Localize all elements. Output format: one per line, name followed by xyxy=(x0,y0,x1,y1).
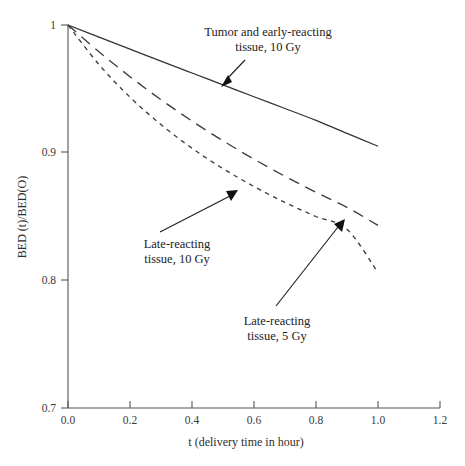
x-tick-label-0.6: 0.6 xyxy=(247,414,262,426)
x-tick-label-0.8: 0.8 xyxy=(309,414,324,426)
y-tick-label-1: 1 xyxy=(50,19,56,31)
annotation-late-5gy: Late-reacting tissue, 5 Gy xyxy=(244,219,345,343)
y-axis-title: BED (t)/BED(O) xyxy=(15,176,29,258)
x-tick-label-0.4: 0.4 xyxy=(185,414,200,426)
annotation-late-10gy-line1: Late-reacting xyxy=(144,237,211,251)
annotation-late-5gy-leader xyxy=(276,227,338,306)
annotation-tumor-early: Tumor and early-reacting tissue, 10 Gy xyxy=(204,25,332,87)
annotation-late-10gy: Late-reacting tissue, 10 Gy xyxy=(144,190,238,266)
annotation-late-10gy-arrowhead xyxy=(226,190,238,201)
annotation-late-5gy-line1: Late-reacting xyxy=(244,314,311,328)
annotation-late-10gy-line2: tissue, 10 Gy xyxy=(144,252,210,266)
chart-figure: 1 0.9 0.8 0.7 BED (t)/BED(O) 0.0 0.2 0.4… xyxy=(0,0,465,466)
y-tick-label-0.7: 0.7 xyxy=(42,402,57,414)
annotation-tumor-early-line2: tissue, 10 Gy xyxy=(235,40,301,54)
chart-canvas: 1 0.9 0.8 0.7 BED (t)/BED(O) 0.0 0.2 0.4… xyxy=(0,0,465,466)
x-axis-title: t (delivery time in hour) xyxy=(188,435,303,449)
x-tick-label-0.2: 0.2 xyxy=(123,414,138,426)
annotation-late-10gy-leader xyxy=(160,196,230,232)
annotation-tumor-early-line1: Tumor and early-reacting xyxy=(204,25,332,39)
x-tick-label-1.2: 1.2 xyxy=(433,414,448,426)
y-tick-label-0.9: 0.9 xyxy=(42,146,57,158)
annotation-late-5gy-line2: tissue, 5 Gy xyxy=(247,329,307,343)
y-axis: 1 0.9 0.8 0.7 BED (t)/BED(O) xyxy=(15,19,68,414)
x-axis: 0.0 0.2 0.4 0.6 0.8 1.0 1.2 t (delivery … xyxy=(61,401,448,449)
x-tick-label-1.0: 1.0 xyxy=(371,414,386,426)
x-tick-label-0.0: 0.0 xyxy=(61,414,76,426)
annotation-tumor-early-arrowhead xyxy=(221,75,232,87)
y-tick-label-0.8: 0.8 xyxy=(42,274,57,286)
series-late-reacting-10gy xyxy=(68,25,378,225)
